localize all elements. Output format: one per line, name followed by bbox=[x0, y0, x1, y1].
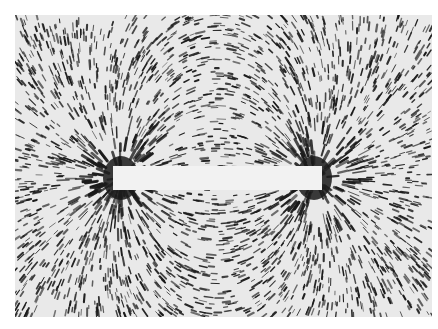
field-lines bbox=[15, 15, 432, 317]
bar-magnet bbox=[113, 166, 322, 190]
magnet-filings-photo bbox=[15, 15, 432, 317]
